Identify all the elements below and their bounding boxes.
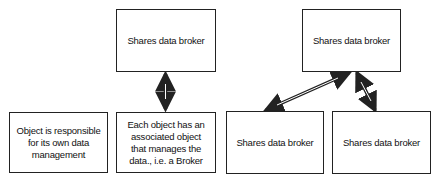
arrow-top-right-to-bottom-right-2 <box>357 73 375 110</box>
box-top-center: Shares data broker <box>116 9 216 72</box>
box-bottom-right-2-label: Shares data broker <box>343 137 420 149</box>
box-bottom-left-label: Object is responsible for its own data m… <box>16 125 101 161</box>
box-top-right-label: Shares data broker <box>313 35 390 47</box>
box-bottom-left: Object is responsible for its own data m… <box>9 112 108 173</box>
arrow-top-right-to-bottom-right-1 <box>266 73 349 110</box>
box-bottom-right-2: Shares data broker <box>332 111 431 174</box>
box-bottom-right-1: Shares data broker <box>226 111 324 174</box>
box-top-right: Shares data broker <box>302 9 401 72</box>
box-top-center-label: Shares data broker <box>127 35 204 47</box>
box-bottom-right-1-label: Shares data broker <box>236 137 313 149</box>
box-bottom-center: Each object has an associated object tha… <box>116 112 216 173</box>
box-bottom-center-label: Each object has an associated object tha… <box>123 119 209 167</box>
